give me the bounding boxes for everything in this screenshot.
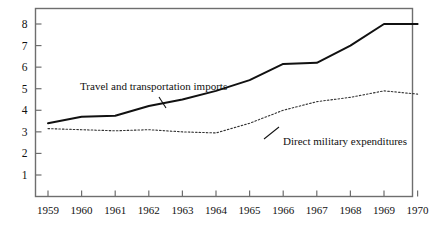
x-tick-label: 1968 bbox=[339, 204, 362, 216]
y-tick-label: 6 bbox=[22, 61, 28, 73]
x-tick-label: 1969 bbox=[373, 204, 396, 216]
x-tick-label: 1967 bbox=[306, 204, 329, 216]
x-tick-label: 1960 bbox=[71, 204, 94, 216]
y-tick-label: 2 bbox=[22, 147, 28, 159]
y-tick-label: 5 bbox=[22, 83, 28, 95]
y-tick-label: 7 bbox=[22, 40, 28, 52]
annotation-direct-military-expenditures: Direct military expenditures bbox=[283, 135, 407, 147]
annotation-travel-transportation-imports: Travel and transportation imports bbox=[80, 80, 227, 92]
x-tick-label: 1962 bbox=[138, 204, 160, 216]
y-tick-label: 3 bbox=[22, 126, 28, 138]
x-tick-label: 1963 bbox=[171, 204, 194, 216]
y-tick-label: 8 bbox=[22, 18, 28, 30]
x-tick-label: 1966 bbox=[272, 204, 295, 216]
y-tick-label: 4 bbox=[22, 104, 28, 116]
x-tick-label: 1970 bbox=[407, 204, 430, 216]
line-chart: 87654321 1959196019611962196319641965196… bbox=[0, 0, 430, 232]
chart-container: 87654321 1959196019611962196319641965196… bbox=[0, 0, 430, 232]
x-tick-label: 1965 bbox=[239, 204, 262, 216]
x-tick-label: 1959 bbox=[37, 204, 60, 216]
x-tick-label: 1964 bbox=[205, 204, 228, 216]
x-tick-label: 1961 bbox=[104, 204, 126, 216]
y-tick-label: 1 bbox=[22, 169, 28, 181]
